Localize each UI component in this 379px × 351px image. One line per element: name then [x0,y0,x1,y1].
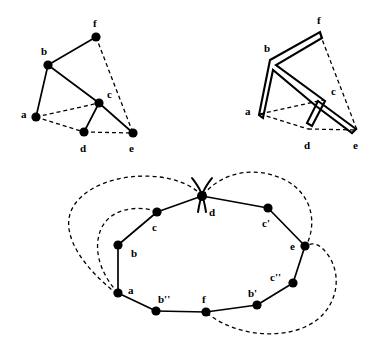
cycle-vertex-bpp [151,306,160,315]
cycle-vertex-bp [252,300,261,309]
vertex-b [43,60,52,69]
panel-tree-dashed-edges [36,37,133,133]
edge-b-f-solid [48,37,96,65]
chord-d-e-outer-right [203,172,312,244]
cycle-edge-bp-f [206,305,257,312]
label-f-2: f [317,14,321,26]
edge-d-e-dashed [84,132,133,133]
cycle-edge-cpp-bp [257,283,293,305]
cycle-vertex-cpp [288,278,297,287]
label-f: f [93,17,97,29]
panel-tree-solid-edges [36,37,133,133]
label-d-2: d [304,139,310,151]
label-e-2: e [353,139,358,151]
chord-f-e-outer-right [207,244,336,334]
label-d: d [80,142,86,154]
cycle-edge-bpp-a [118,293,156,311]
label-a-2: a [245,105,251,117]
cycle-vertex-f [201,307,210,316]
edge-a-c-dashed [36,103,99,117]
cycle-vertex-a [113,288,122,297]
label-e: e [129,142,134,154]
cycle-vertex-c [152,207,161,216]
vertex-e [128,128,137,137]
label-b: b [41,45,47,57]
panel-cycle: d c c' b e c'' a b' b'' f [69,172,337,334]
panel-cycle-labels: d c c' b e c'' a b' b'' f [128,206,295,305]
label-c: c [107,88,112,100]
cycle-vertex-cp [263,203,272,212]
vertex-c [94,98,103,107]
cycle-label-d: d [209,206,215,218]
panel-tree: f b c a d e [21,17,138,154]
panel-tree-vertices [31,32,137,137]
figure-root: f b c a d e f b c [0,0,379,351]
vertex-a [31,112,40,121]
label-c-2: c [331,85,336,97]
cycle-vertex-d [197,191,207,201]
cycle-edge-f-bpp [156,311,206,312]
edge-c-d-solid [84,103,99,132]
cycle-label-bp: b' [248,287,257,299]
vertex-d [79,127,88,136]
panel-doubled-dashed-edges [260,34,357,130]
edge-a-b-solid [36,65,48,117]
chord-a-d-outer-left [69,176,201,294]
cycle-label-cp: c' [262,217,270,229]
edge-d-e-dashed-2 [308,129,357,130]
cycle-label-cpp: c'' [270,271,281,283]
cycle-label-a: a [128,284,134,296]
cycle-label-b: b [131,247,137,259]
edge-a-d-dashed-2 [260,114,308,129]
panel-tree-labels: f b c a d e [21,17,134,154]
cycle-edge-c-d [157,196,202,212]
cycle-label-c: c [152,221,157,233]
edge-b-c-solid [48,65,99,103]
label-b-2: b [264,42,270,54]
cycle-label-e: e [290,240,295,252]
cycle-edge-cp-e [268,208,305,246]
cycle-vertex-b [113,240,122,249]
cycle-label-bpp: b'' [158,293,170,305]
cycle-vertex-e [300,241,309,250]
edge-a-d-dashed [36,117,84,132]
figure-canvas: f b c a d e f b c [0,0,379,351]
vertex-f [91,32,100,41]
cycle-label-f: f [202,293,206,305]
edge-f-e-dashed [96,37,133,133]
label-a: a [21,108,27,120]
panel-doubled: f b c a d e [245,14,358,151]
